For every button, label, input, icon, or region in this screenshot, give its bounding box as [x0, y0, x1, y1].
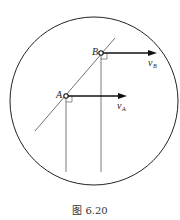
label-va-sub: A — [121, 106, 126, 112]
label-a: A — [55, 89, 63, 100]
arrowhead-a — [118, 93, 127, 99]
label-vb-sub: B — [153, 63, 157, 69]
figure-caption: 图 6.20 — [0, 202, 180, 217]
point-a — [64, 94, 68, 98]
label-b: B — [92, 46, 98, 57]
arrowhead-b — [148, 50, 157, 56]
point-b — [99, 51, 103, 55]
body-circle — [10, 17, 178, 185]
diagram: A B v A v B — [0, 0, 180, 220]
